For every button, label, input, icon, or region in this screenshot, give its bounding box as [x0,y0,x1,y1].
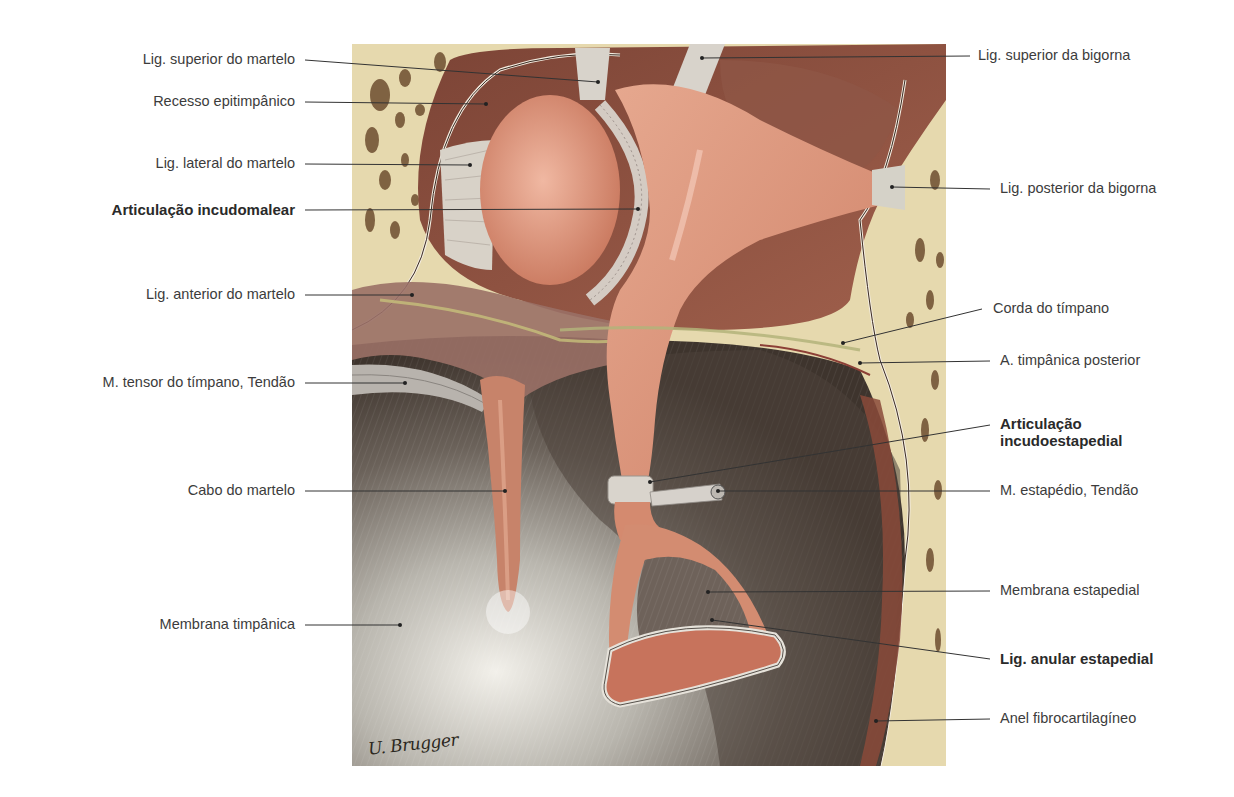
label-recesso-epitimpanico: Recesso epitimpânico [153,93,295,110]
label-lig-anular-estapedial: Lig. anular estapedial [1000,650,1153,667]
leader-endpoint-dot [596,80,600,84]
label-m-tensor-do-timpano-tendao: M. tensor do tímpano, Tendão [103,374,295,391]
label-lig-lateral-do-martelo: Lig. lateral do martelo [156,155,295,172]
leader-endpoint-dot [710,618,714,622]
leader-endpoint-dot [706,590,710,594]
label-lig-anterior-do-martelo: Lig. anterior do martelo [146,286,295,303]
label-lig-superior-do-martelo: Lig. superior do martelo [143,51,295,68]
leader-endpoint-dot [403,381,407,385]
superior-malleolar-ligament [575,48,610,100]
label-anel-fibrocartilagineo: Anel fibrocartilagíneo [1000,710,1136,727]
label-lig-superior-da-bigorna: Lig. superior da bigorna [978,47,1130,64]
label-articulacao-incudomalear: Articulação incudomalear [112,201,295,218]
leader-endpoint-dot [858,361,862,365]
leader-endpoint-dot [841,341,845,345]
incudostapedial-joint [608,476,653,504]
leader-endpoint-dot [890,185,894,189]
leader-endpoint-dot [410,293,414,297]
label-membrana-timpanica: Membrana timpânica [160,616,295,633]
label-corda-do-timpano: Corda do tímpano [993,300,1109,317]
leader-endpoint-dot [398,623,402,627]
leader-endpoint-dot [700,56,704,60]
malleus-head [480,95,620,285]
leader-endpoint-dot [468,163,472,167]
label-a-timpanica-posterior: A. timpânica posterior [1000,352,1140,369]
leader-endpoint-dot [503,489,507,493]
anatomy-artwork [352,44,946,766]
label-lig-posterior-da-bigorna: Lig. posterior da bigorna [1000,180,1156,197]
label-membrana-estapedial: Membrana estapedial [1000,582,1139,599]
label-m-estapedio-tendao: M. estapédio, Tendão [1000,482,1138,499]
ear-ossicles-illustration [0,0,1234,797]
leader-endpoint-dot [648,480,652,484]
leader-endpoint-dot [874,719,878,723]
leader-endpoint-dot [484,102,488,106]
leader-endpoint-dot [716,489,720,493]
label-articulacao-incudoestapedial: Articulaçãoincudoestapedial [1000,415,1123,449]
leader-endpoint-dot [636,207,640,211]
label-cabo-do-martelo: Cabo do martelo [188,482,295,499]
